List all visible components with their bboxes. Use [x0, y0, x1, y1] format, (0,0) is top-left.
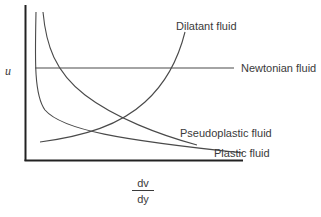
x-axis-label: dv dy — [132, 177, 154, 205]
x-axis-label-denominator: dy — [132, 193, 154, 205]
fraction-bar — [132, 190, 154, 191]
viscosity-diagram — [0, 0, 321, 217]
plastic-label: Plastic fluid — [214, 148, 270, 159]
newtonian-label: Newtonian fluid — [241, 63, 316, 74]
dilatant-curve — [40, 32, 185, 142]
pseudoplastic-label: Pseudoplastic fluid — [180, 128, 272, 139]
pseudoplastic-curve — [43, 12, 197, 145]
y-axis-label: u — [5, 64, 11, 79]
x-axis-label-numerator: dv — [132, 177, 154, 189]
dilatant-label: Dilatant fluid — [176, 21, 237, 32]
